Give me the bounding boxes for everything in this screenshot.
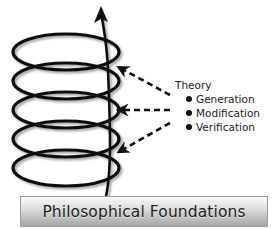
philosophical-foundations-bar: Philosophical Foundations — [20, 196, 268, 227]
theory-item-label: Verification — [196, 121, 255, 133]
theory-block: Theory Generation Modification Verificat… — [175, 78, 260, 134]
bullet-icon — [186, 96, 192, 102]
bullet-icon — [186, 110, 192, 116]
spiral-coils — [13, 18, 119, 196]
arrow-generation — [122, 69, 170, 95]
foundation-label: Philosophical Foundations — [42, 203, 245, 221]
theory-title: Theory — [175, 78, 260, 92]
dashed-arrows — [122, 69, 170, 150]
theory-item-generation: Generation — [186, 92, 260, 106]
theory-item-verification: Verification — [186, 120, 260, 134]
spiral-up-arrow-icon — [94, 6, 108, 23]
bullet-icon — [186, 124, 192, 130]
theory-item-label: Generation — [196, 93, 255, 105]
theory-item-modification: Modification — [186, 106, 260, 120]
theory-list: Generation Modification Verification — [175, 92, 260, 134]
spiral-spine — [102, 18, 110, 196]
arrow-verification — [122, 123, 170, 150]
theory-item-label: Modification — [196, 107, 260, 119]
